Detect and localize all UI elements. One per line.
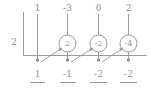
- result-2: -1: [57, 70, 78, 79]
- product-value-3: -4: [119, 40, 138, 48]
- coefficient-drop-lines: [38, 14, 129, 56]
- product-value-2: -2: [89, 40, 108, 48]
- coefficient-1: 1: [27, 4, 48, 13]
- synthetic-division-diagram: 2 1 -3 0 2 2 -2 -4 1 -1 -2 -2: [0, 0, 151, 89]
- coefficient-4: 2: [118, 4, 139, 13]
- result-4: -2: [118, 70, 139, 79]
- result-dots: [36, 58, 130, 61]
- result-stubs: [38, 56, 129, 62]
- coefficient-2: -3: [57, 4, 78, 13]
- coefficient-3: 0: [88, 4, 109, 13]
- result-3: -2: [88, 70, 109, 79]
- product-value-1: 2: [58, 40, 77, 48]
- result-1: 1: [27, 70, 48, 79]
- divisor-value: 2: [8, 38, 20, 47]
